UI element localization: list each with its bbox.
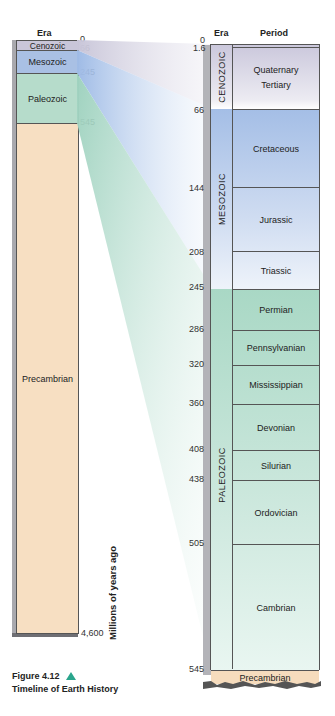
triangle-icon bbox=[66, 672, 76, 680]
period-silurian: Silurian bbox=[233, 450, 319, 480]
right-tick-286: 286 bbox=[189, 324, 204, 334]
right-tick-66: 66 bbox=[194, 105, 204, 115]
period-devonian: Devonian bbox=[233, 404, 319, 450]
right-tick-144: 144 bbox=[189, 183, 204, 193]
right-tick-505: 505 bbox=[189, 538, 204, 548]
period-tertiary: Tertiary bbox=[233, 75, 319, 95]
period-ordovician: Ordovician bbox=[233, 480, 319, 544]
left-era-column: Cenozoic Mesozoic Paleozoic Precambrian bbox=[16, 40, 79, 634]
period-permian: Permian bbox=[233, 289, 319, 330]
right-period-column: CENOZOIC MESOZOIC PALEOZOIC Quaternary T… bbox=[210, 44, 320, 670]
figure-number: Figure 4.12 bbox=[12, 671, 60, 681]
left-era-header: Era bbox=[37, 28, 52, 38]
right-era-header: Era bbox=[214, 28, 229, 38]
period-cambrian: Cambrian bbox=[233, 544, 319, 670]
axis-label-mya: Millions of years ago bbox=[107, 546, 118, 640]
right-tick-545: 545 bbox=[189, 664, 204, 674]
figure-title: Timeline of Earth History bbox=[12, 683, 118, 696]
period-mississippian: Mississippian bbox=[233, 365, 319, 404]
right-tick-208: 208 bbox=[189, 247, 204, 257]
right-tick-245: 245 bbox=[189, 282, 204, 292]
left-era-mesozoic: Mesozoic bbox=[17, 51, 78, 74]
right-era-mesozoic: MESOZOIC bbox=[211, 109, 233, 289]
right-tick-1-6: 1.6 bbox=[193, 43, 206, 53]
torn-edge bbox=[203, 680, 323, 690]
period-cretaceous: Cretaceous bbox=[233, 109, 319, 187]
right-tick-360: 360 bbox=[189, 398, 204, 408]
right-era-cenozoic: CENOZOIC bbox=[211, 45, 233, 109]
right-period-header: Period bbox=[260, 28, 288, 38]
period-jurassic: Jurassic bbox=[233, 187, 319, 251]
period-triassic: Triassic bbox=[233, 251, 319, 289]
right-era-paleozoic: PALEOZOIC bbox=[211, 435, 233, 515]
right-tick-438: 438 bbox=[189, 474, 204, 484]
left-era-cenozoic: Cenozoic bbox=[17, 41, 78, 51]
period-pennsylvanian: Pennsylvanian bbox=[233, 330, 319, 365]
left-era-precambrian: Precambrian bbox=[17, 124, 78, 633]
figure-caption: Figure 4.12 Timeline of Earth History bbox=[12, 670, 118, 696]
right-tick-408: 408 bbox=[189, 444, 204, 454]
period-quaternary: Quaternary bbox=[233, 47, 319, 75]
left-era-paleozoic: Paleozoic bbox=[17, 74, 78, 124]
right-tick-320: 320 bbox=[189, 359, 204, 369]
